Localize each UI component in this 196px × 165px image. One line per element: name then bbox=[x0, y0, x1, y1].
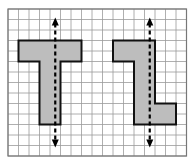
grid-paper bbox=[8, 9, 187, 156]
grid-figure bbox=[0, 0, 196, 165]
arrow-down-icon bbox=[52, 140, 59, 148]
arrow-up-icon bbox=[52, 18, 59, 26]
arrow-down-icon bbox=[146, 140, 153, 148]
arrow-up-icon bbox=[146, 18, 153, 26]
